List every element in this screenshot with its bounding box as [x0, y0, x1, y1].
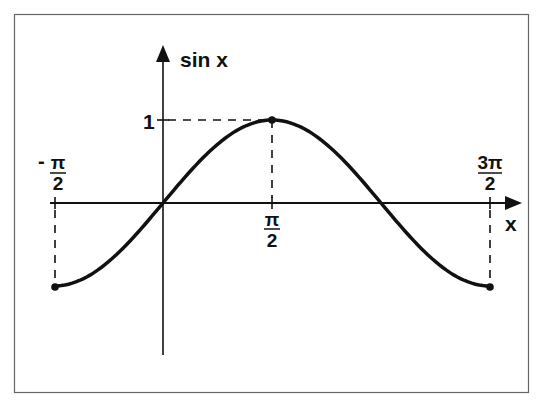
three-pi-half-numerator: 3π: [477, 152, 503, 173]
sine-graph: sin x x 1 - π 2 π 2 3π 2: [0, 0, 543, 408]
y-axis-label: sin x: [180, 48, 228, 71]
neg-sign: -: [38, 150, 45, 172]
point-peak: [268, 116, 276, 124]
pi-half-numerator: π: [265, 209, 280, 230]
neg-pi-half-denominator: 2: [53, 173, 64, 194]
x-axis-label: x: [505, 212, 517, 235]
neg-pi-half-numerator: π: [51, 152, 66, 173]
point-neg-pi-half: [51, 283, 59, 291]
three-pi-half-denominator: 2: [485, 173, 496, 194]
y-tick-label-one: 1: [143, 110, 155, 133]
x-axis-arrow-icon: [505, 196, 522, 210]
point-three-pi-half: [486, 283, 494, 291]
y-axis-arrow-icon: [156, 45, 170, 62]
pi-half-denominator: 2: [267, 230, 278, 251]
